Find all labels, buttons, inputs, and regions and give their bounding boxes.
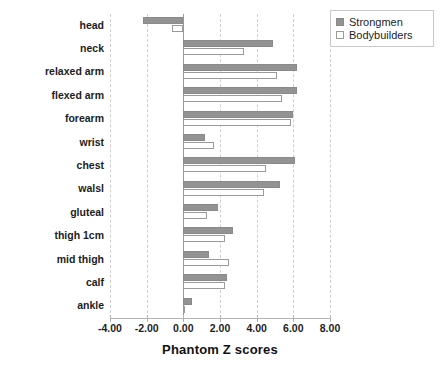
- clipped-header-text: [120, 0, 340, 5]
- y-axis-label-ankle: ankle: [0, 300, 104, 311]
- y-axis-label-chest: chest: [0, 160, 104, 171]
- bar-bodybuilders-wrist: [183, 142, 214, 149]
- bar-strongmen-head: [143, 17, 183, 24]
- y-axis-label-calf: calf: [0, 277, 104, 288]
- y-axis-label-neck: neck: [0, 43, 104, 54]
- legend-swatch-bodybuilders-icon: [336, 31, 344, 39]
- x-tick-mark: [257, 315, 258, 322]
- x-tick-mark: [147, 315, 148, 322]
- bar-group: [110, 178, 330, 201]
- legend-item-bodybuilders[interactable]: Bodybuilders: [336, 29, 427, 41]
- x-tick-mark: [330, 315, 331, 322]
- bar-strongmen-walsl: [183, 181, 280, 188]
- bar-strongmen-thigh-1cm: [183, 227, 233, 234]
- y-axis-label-thigh-1cm: thigh 1cm: [0, 230, 104, 241]
- bar-bodybuilders-calf: [183, 282, 225, 289]
- bar-bodybuilders-flexed-arm: [183, 95, 282, 102]
- y-axis-label-walsl: walsl: [0, 183, 104, 194]
- x-axis-tick-labels: -4.00-2.000.002.004.006.008.00: [0, 322, 441, 336]
- bar-bodybuilders-relaxed-arm: [183, 72, 277, 79]
- bar-group: [110, 224, 330, 247]
- chart-container: headneckrelaxed armflexed armforearmwris…: [0, 0, 441, 370]
- bar-strongmen-gluteal: [183, 204, 218, 211]
- x-tick-label: -4.00: [98, 322, 122, 334]
- bar-strongmen-wrist: [183, 134, 205, 141]
- bar-strongmen-calf: [183, 274, 227, 281]
- bar-strongmen-mid-thigh: [183, 251, 209, 258]
- bar-bodybuilders-thigh-1cm: [183, 235, 225, 242]
- y-axis-label-wrist: wrist: [0, 137, 104, 148]
- bar-strongmen-chest: [183, 157, 295, 164]
- bar-group: [110, 84, 330, 107]
- x-tick-mark: [110, 315, 111, 322]
- x-axis-line: [110, 318, 330, 319]
- gridline-8: [330, 14, 331, 318]
- y-axis-category-labels: headneckrelaxed armflexed armforearmwris…: [0, 14, 104, 318]
- bar-bodybuilders-ankle: [183, 306, 185, 313]
- bar-bodybuilders-gluteal: [183, 212, 207, 219]
- bar-group: [110, 108, 330, 131]
- bar-bodybuilders-forearm: [183, 119, 291, 126]
- legend: Strongmen Bodybuilders: [330, 10, 434, 47]
- y-axis-label-mid-thigh: mid thigh: [0, 254, 104, 265]
- bar-group: [110, 201, 330, 224]
- y-axis-label-head: head: [0, 20, 104, 31]
- x-tick-label: 0.00: [173, 322, 193, 334]
- bar-strongmen-forearm: [183, 111, 293, 118]
- legend-label-strongmen: Strongmen: [349, 16, 403, 28]
- bar-strongmen-relaxed-arm: [183, 64, 297, 71]
- legend-swatch-strongmen-icon: [336, 18, 344, 26]
- bar-bodybuilders-mid-thigh: [183, 259, 229, 266]
- legend-label-bodybuilders: Bodybuilders: [349, 29, 413, 41]
- x-tick-mark: [293, 315, 294, 322]
- bar-group: [110, 14, 330, 37]
- bar-strongmen-flexed-arm: [183, 87, 297, 94]
- x-tick-label: -2.00: [135, 322, 159, 334]
- bar-group: [110, 61, 330, 84]
- y-axis-label-gluteal: gluteal: [0, 207, 104, 218]
- x-tick-label: 8.00: [320, 322, 340, 334]
- bar-bodybuilders-walsl: [183, 189, 264, 196]
- legend-item-strongmen[interactable]: Strongmen: [336, 16, 427, 28]
- x-tick-label: 2.00: [210, 322, 230, 334]
- bar-strongmen-ankle: [183, 298, 192, 305]
- x-axis-title: Phantom Z scores: [110, 342, 330, 357]
- bar-bodybuilders-chest: [183, 165, 266, 172]
- y-axis-label-flexed-arm: flexed arm: [0, 90, 104, 101]
- x-tick-label: 4.00: [246, 322, 266, 334]
- bar-group: [110, 248, 330, 271]
- bar-strongmen-neck: [183, 40, 273, 47]
- bar-group: [110, 154, 330, 177]
- bar-group: [110, 271, 330, 294]
- bar-bodybuilders-head: [172, 25, 183, 32]
- x-tick-mark: [183, 315, 184, 322]
- y-axis-label-relaxed-arm: relaxed arm: [0, 66, 104, 77]
- bar-group: [110, 37, 330, 60]
- y-axis-label-forearm: forearm: [0, 113, 104, 124]
- x-tick-mark: [220, 315, 221, 322]
- bars-layer: [110, 14, 330, 318]
- bar-group: [110, 131, 330, 154]
- x-tick-label: 6.00: [283, 322, 303, 334]
- bar-bodybuilders-neck: [183, 48, 244, 55]
- plot-area: [110, 14, 330, 318]
